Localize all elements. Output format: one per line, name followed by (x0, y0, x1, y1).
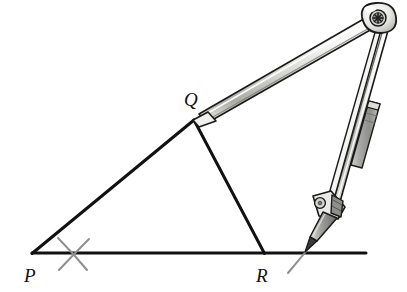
clamp-thumbscrew-center (318, 201, 322, 205)
label-P: P (23, 265, 36, 286)
pivot-gloss (364, 6, 376, 12)
left-arm-shadow (206, 23, 378, 121)
left-arm-highlight (203, 16, 375, 116)
side-QR (194, 120, 265, 254)
label-R: R (255, 265, 268, 286)
compass-pivot-head (362, 3, 396, 33)
compass-right-arm (325, 24, 389, 210)
label-Q: Q (184, 89, 198, 110)
side-PQ (32, 120, 194, 254)
figure-root: P Q R (0, 0, 407, 292)
screw-cross-icon (373, 13, 383, 23)
compass-construction-figure: P Q R (0, 0, 407, 292)
right-arm-highlight (335, 27, 387, 208)
compass-instrument (193, 3, 396, 252)
compass-pencil-assembly (305, 191, 345, 252)
